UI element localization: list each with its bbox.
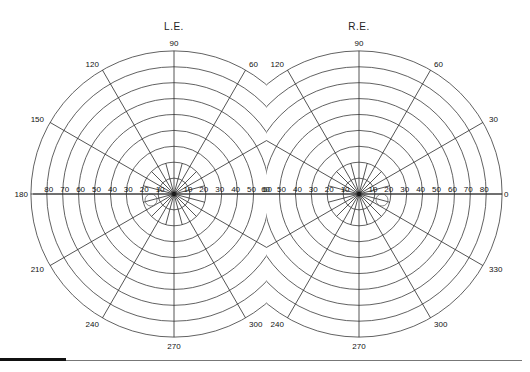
eccentricity-label-30: 30: [400, 185, 409, 194]
eccentricity-label-60: 60: [261, 185, 270, 194]
eccentricity-label-10: 10: [341, 185, 350, 194]
page-edge-bar: [0, 358, 66, 361]
eccentricity-label-10: 10: [368, 185, 377, 194]
meridian-label-300: 300: [249, 320, 263, 329]
eccentricity-label-40: 40: [231, 185, 240, 194]
eccentricity-label-70: 70: [464, 185, 473, 194]
eccentricity-label-50: 50: [247, 185, 256, 194]
eccentricity-label-30: 30: [309, 185, 318, 194]
meridian-label-0: 0: [504, 190, 509, 199]
eccentricity-label-50: 50: [432, 185, 441, 194]
meridian-label-60: 60: [249, 60, 258, 69]
eccentricity-label-20: 20: [199, 185, 208, 194]
meridian-label-90: 90: [170, 39, 179, 48]
visual-field-chart: 9012060150180210240270300901206030033024…: [0, 0, 530, 372]
meridian-label-150: 150: [31, 115, 45, 124]
meridian-label-120: 120: [271, 60, 285, 69]
page-edge-line: [66, 360, 522, 361]
meridian-label-60: 60: [434, 60, 443, 69]
meridian-label-330: 330: [489, 265, 503, 274]
eccentricity-label-10: 10: [183, 185, 192, 194]
right-eye-title: R.E.: [348, 21, 369, 32]
meridian-label-240: 240: [271, 320, 285, 329]
eccentricity-label-20: 20: [384, 185, 393, 194]
eccentricity-label-70: 70: [60, 185, 69, 194]
eccentricity-label-50: 50: [92, 185, 101, 194]
meridian-label-240: 240: [86, 320, 100, 329]
meridian-label-210: 210: [31, 265, 45, 274]
eccentricity-label-80: 80: [480, 185, 489, 194]
meridian-label-270: 270: [167, 342, 181, 351]
eccentricity-label-60: 60: [76, 185, 85, 194]
meridian-label-120: 120: [86, 60, 100, 69]
meridian-label-270: 270: [352, 342, 366, 351]
eccentricity-label-30: 30: [215, 185, 224, 194]
meridian-label-90: 90: [355, 39, 364, 48]
eccentricity-label-20: 20: [325, 185, 334, 194]
eccentricity-label-20: 20: [140, 185, 149, 194]
eccentricity-label-40: 40: [416, 185, 425, 194]
eccentricity-label-50: 50: [277, 185, 286, 194]
meridian-label-30: 30: [489, 115, 498, 124]
left-eye-title: L.E.: [164, 21, 184, 32]
eccentricity-label-80: 80: [44, 185, 53, 194]
eccentricity-label-40: 40: [293, 185, 302, 194]
eccentricity-label-30: 30: [124, 185, 133, 194]
eccentricity-label-40: 40: [108, 185, 117, 194]
meridian-label-180: 180: [15, 190, 29, 199]
eccentricity-label-10: 10: [156, 185, 165, 194]
meridian-label-300: 300: [434, 320, 448, 329]
eccentricity-label-60: 60: [448, 185, 457, 194]
chart-labels: 9012060150180210240270300901206030033024…: [15, 39, 510, 351]
